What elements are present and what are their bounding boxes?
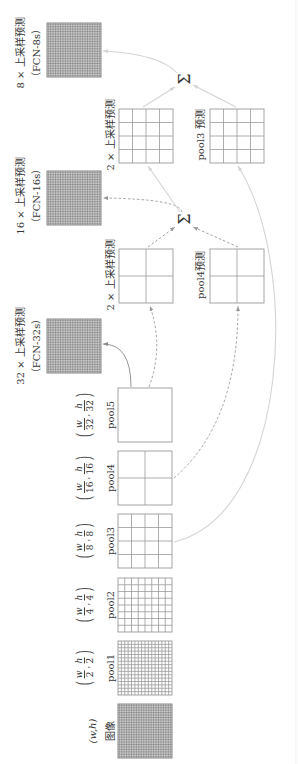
fcn16s-subtitle: （FCN-16s）	[31, 164, 43, 229]
open-paren: (	[73, 554, 95, 559]
fcn32s-subtitle: （FCN-32s）	[31, 314, 43, 379]
close-paren: )	[73, 650, 95, 655]
arrow-sum-middle-to-upsample2x	[148, 166, 180, 212]
separator: ,	[81, 477, 91, 480]
pool3-prediction-label: pool3 预测	[195, 109, 207, 160]
upsample2x-sum-grid	[119, 109, 173, 163]
pool4-grid	[118, 451, 172, 505]
fcn8s-output-grid	[47, 23, 101, 77]
pool3-prediction-grid	[210, 109, 264, 163]
arrow-pool5-to-upsample2x	[149, 306, 157, 387]
open-paren: (	[73, 433, 95, 438]
denominator: 2	[85, 671, 95, 677]
pool1-label: pool1	[105, 654, 117, 682]
pool5-label: pool5	[105, 401, 117, 429]
separator: ,	[81, 666, 91, 669]
fcn32s-title: 32 × 上采样预测	[15, 307, 27, 384]
width-fraction: w 4	[74, 607, 95, 615]
height-fraction: h 16	[74, 463, 95, 474]
numerator: w	[74, 607, 84, 615]
width-fraction: w 8	[74, 543, 95, 551]
fcn8s-title: 8 × 上采样预测	[15, 17, 27, 88]
upsample2x-pool5-label: 2 × 上采样预测	[105, 239, 117, 310]
close-paren: )	[73, 456, 95, 461]
denominator: 32	[85, 400, 95, 411]
arrow-sum-top-to-fcn8s	[103, 51, 177, 73]
pool2-label: pool2	[105, 591, 117, 619]
upsample2x-pool5-grid	[119, 249, 173, 303]
pool4-prediction-grid	[210, 249, 264, 303]
arrow-pool3-prediction-to-sum-top	[193, 85, 236, 107]
pool3-grid	[118, 514, 172, 568]
denominator: 8	[85, 544, 95, 550]
sum-icon-top: Σ	[175, 73, 194, 84]
pool5-grid	[118, 388, 172, 442]
pool4-size-label: ( w 16 , h 16 )	[73, 454, 95, 502]
separator: ,	[81, 603, 91, 606]
separator: ,	[81, 539, 91, 542]
numerator: h	[74, 531, 84, 537]
numerator: w	[74, 483, 84, 491]
numerator: h	[74, 403, 84, 409]
arrow-upsample2x-to-sum-middle	[148, 227, 175, 247]
pool3-label: pool3	[105, 527, 117, 555]
denominator: 8	[85, 531, 95, 537]
sum-icon-middle: Σ	[175, 213, 194, 224]
denominator: 16	[85, 463, 95, 474]
numerator: w	[74, 543, 84, 551]
pool4-label: pool4	[105, 464, 117, 492]
denominator: 4	[85, 608, 95, 614]
open-paren: (	[73, 681, 95, 686]
height-fraction: h 32	[74, 400, 95, 411]
arrow-upsample2x-to-sum-top	[143, 87, 175, 107]
denominator: 32	[85, 418, 95, 429]
pool4-prediction-label: pool4预测	[195, 251, 207, 299]
arrow-sum-middle-to-fcn16s	[103, 198, 182, 212]
denominator: 2	[85, 658, 95, 664]
width-fraction: w 16	[74, 481, 95, 492]
numerator: w	[74, 670, 84, 678]
numerator: h	[74, 595, 84, 601]
arrow-pool5-to-fcn32s	[103, 344, 131, 387]
close-paren: )	[73, 393, 95, 398]
height-fraction: h 4	[74, 595, 95, 601]
open-paren: (	[73, 618, 95, 623]
pool3-size-label: ( w 8 , h 8 )	[73, 522, 95, 561]
fcn16s-title: 16 × 上采样预测	[15, 157, 27, 234]
numerator: h	[74, 466, 84, 472]
open-paren: (	[73, 496, 95, 501]
input-size-label: (w,h)	[87, 719, 99, 744]
arrow-pool4-prediction-to-sum-middle	[193, 227, 238, 247]
separator: ,	[81, 414, 91, 417]
width-fraction: w 32	[74, 418, 95, 429]
numerator: h	[74, 658, 84, 664]
denominator: 16	[85, 481, 95, 492]
arrow-pool4-to-pool4-prediction	[174, 306, 238, 478]
pool5-size-label: ( w 32 , h 32 )	[73, 391, 95, 439]
input-image-label: 图像	[105, 721, 117, 741]
fcn-architecture-diagram: Σ Σ (w,h) 图像 pool1 pool2 pool3 pool4 poo…	[0, 0, 298, 764]
pool1-size-label: ( w 2 , h 2 )	[73, 649, 95, 688]
width-fraction: w 2	[74, 670, 95, 678]
pool2-size-label: ( w 4 , h 4 )	[73, 586, 95, 625]
height-fraction: h 2	[74, 658, 95, 664]
numerator: w	[74, 420, 84, 428]
fcn16s-output-grid	[47, 171, 101, 225]
input-image-grid	[118, 704, 172, 758]
pool1-grid	[118, 641, 172, 695]
pool2-grid	[118, 578, 172, 632]
diagram-canvas: Σ Σ	[0, 0, 298, 764]
denominator: 4	[85, 595, 95, 601]
close-paren: )	[73, 587, 95, 592]
upsample2x-sum-label: 2 × 上采样预测	[105, 99, 117, 170]
fcn32s-output-grid	[47, 319, 101, 373]
close-paren: )	[73, 523, 95, 528]
fcn8s-subtitle: （FCN-8s）	[31, 24, 43, 82]
height-fraction: h 8	[74, 531, 95, 537]
